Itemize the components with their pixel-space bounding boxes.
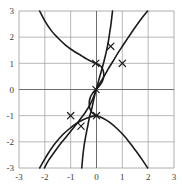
x-tick-label: -2 <box>41 172 49 182</box>
x-tick-label: 2 <box>146 172 151 182</box>
y-tick-label: -1 <box>7 111 15 121</box>
y-tick-label: 0 <box>10 85 15 95</box>
plot-figure: -3-2-10123 -3-2-10123 <box>0 0 182 189</box>
x-tick-label: -3 <box>15 172 23 182</box>
x-tick-label: -1 <box>67 172 75 182</box>
plot-curve <box>96 11 148 90</box>
y-tick-label: 1 <box>10 59 15 69</box>
x-tick-label: 3 <box>172 172 177 182</box>
y-tick-label: -3 <box>7 163 15 173</box>
y-axis-tick-labels: -3-2-10123 <box>7 6 15 173</box>
y-tick-label: -2 <box>7 137 15 147</box>
x-axis-tick-labels: -3-2-10123 <box>15 172 177 182</box>
y-tick-label: 3 <box>10 6 15 16</box>
x-tick-label: 0 <box>94 172 99 182</box>
data-point-marker <box>78 123 84 129</box>
data-point-marker <box>108 43 114 49</box>
x-tick-label: 1 <box>120 172 125 182</box>
y-tick-label: 2 <box>10 32 15 42</box>
plot-canvas: -3-2-10123 -3-2-10123 <box>0 0 182 189</box>
